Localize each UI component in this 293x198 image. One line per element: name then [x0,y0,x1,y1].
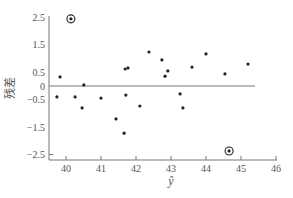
x-tick-label: 45 [236,163,246,174]
x-tick-label: 41 [96,163,106,174]
data-point [147,50,150,53]
y-tick-label: −0.5 [27,94,45,105]
data-points [55,15,249,155]
x-tick-label: 44 [201,163,211,174]
data-point [160,58,163,61]
data-point [181,106,184,109]
y-tick-label: 0.5 [33,67,46,78]
data-point [123,132,126,135]
data-point [228,149,231,152]
data-point [190,65,193,68]
data-point [166,69,169,72]
x-tick-label: 43 [166,163,176,174]
data-point [163,75,166,78]
x-axis-label: ŷ [167,174,174,188]
x-tick-label: 42 [131,163,141,174]
y-tick-label: 2.5 [33,12,46,23]
data-point [99,96,102,99]
x-tick-label: 40 [61,163,71,174]
data-point [223,72,226,75]
data-point [55,95,58,98]
residual-scatter-plot: 2.51.50.50−0.5−1.5−2.5 40414243444546 残差… [0,0,293,198]
data-point [58,75,61,78]
data-point [69,17,72,20]
data-point [126,66,129,69]
data-point [74,95,77,98]
data-point [179,92,182,95]
axes [49,16,277,160]
data-point [82,83,85,86]
y-axis-label: 残差 [3,77,16,99]
data-point [246,62,249,65]
data-point [124,93,127,96]
data-point [81,106,84,109]
y-tick-label: −1.5 [27,122,45,133]
x-axis-ticks: 40414243444546 [61,156,281,174]
y-tick-label: −2.5 [27,149,45,160]
data-point [204,52,207,55]
data-point [114,117,117,120]
y-tick-label: 1.5 [33,39,46,50]
data-point [138,104,141,107]
y-tick-label: 0 [40,81,45,92]
x-tick-label: 46 [271,163,281,174]
data-point [124,67,127,70]
